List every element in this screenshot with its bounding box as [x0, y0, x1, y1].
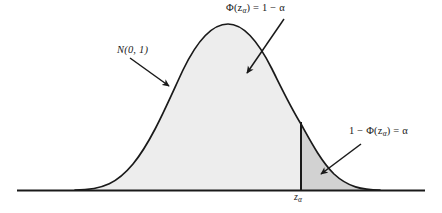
normal-distribution-figure: Φ(zα) = 1 − α N(0, 1) 1 − Φ(zα) = α zα — [0, 0, 442, 213]
tail-probability-label: 1 − Φ(zα) = α — [349, 125, 408, 138]
tail-label-arrow — [321, 144, 361, 174]
body-probability-lead: Φ(z — [226, 2, 242, 13]
distribution-label-text: N(0, 1) — [117, 44, 148, 55]
body-probability-label: Φ(zα) = 1 − α — [226, 2, 285, 15]
z-alpha-tick-label: zα — [294, 191, 302, 204]
z-alpha-subscript: α — [298, 195, 302, 204]
distribution-label: N(0, 1) — [117, 44, 148, 55]
body-region-fill — [75, 24, 301, 190]
tail-probability-lead: 1 − Φ(z — [349, 125, 383, 136]
distribution-label-arrow — [130, 58, 169, 86]
body-probability-rest: ) = 1 − α — [247, 2, 285, 13]
distribution-plot — [0, 0, 442, 213]
tail-probability-rest: ) = α — [387, 125, 408, 136]
